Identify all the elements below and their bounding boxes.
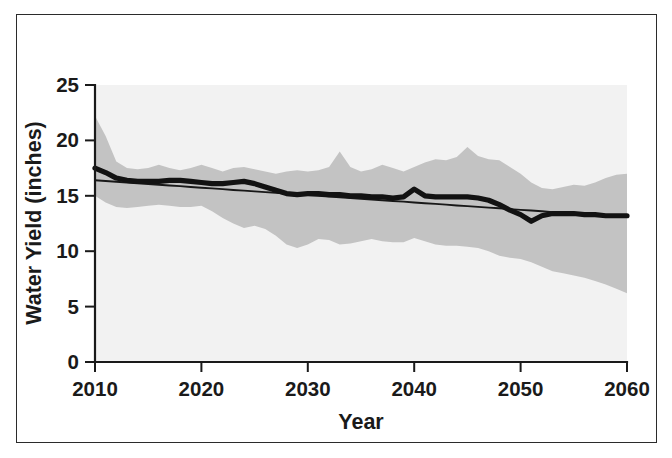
y-axis-title: Water Yield (inches) (22, 121, 46, 325)
x-axis-tick-label: 2050 (498, 377, 544, 400)
x-axis-tick-label: 2030 (285, 377, 331, 400)
y-axis-tick-labels: 0510152025 (56, 73, 79, 373)
water-yield-chart: 0510152025 201020202030204020502060 Year… (17, 15, 655, 441)
y-axis-tick-label: 15 (56, 184, 79, 207)
y-axis-tick-label: 25 (56, 73, 79, 96)
x-axis-tick-labels: 201020202030204020502060 (72, 377, 650, 400)
y-axis-tick-label: 20 (56, 128, 79, 151)
x-axis-tick-label: 2010 (72, 377, 118, 400)
figure-canvas: 0510152025 201020202030204020502060 Year… (0, 0, 672, 458)
x-axis-title: Year (338, 410, 384, 434)
y-axis-tick-label: 5 (68, 295, 79, 318)
x-axis-tick-label: 2060 (604, 377, 650, 400)
figure-border: 0510152025 201020202030204020502060 Year… (16, 14, 657, 443)
y-axis-ticks (85, 85, 95, 362)
y-axis-tick-label: 10 (56, 239, 79, 262)
x-axis-tick-label: 2040 (391, 377, 437, 400)
y-axis-tick-label: 0 (68, 350, 79, 373)
x-axis-ticks (95, 362, 627, 372)
x-axis-tick-label: 2020 (179, 377, 225, 400)
